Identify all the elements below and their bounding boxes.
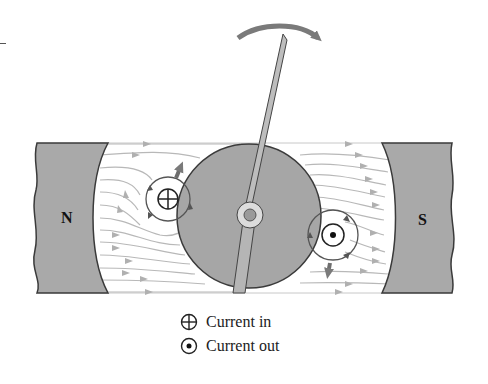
pivot — [244, 209, 256, 221]
legend-label: Current out — [206, 337, 279, 355]
legend-label: Current in — [206, 313, 271, 331]
force-arrow-up — [176, 166, 181, 178]
circle-cross-icon — [180, 313, 198, 331]
south-pole: S — [382, 143, 454, 293]
rotation-arrow-icon — [238, 26, 318, 38]
legend-item-current-in: Current in — [180, 310, 279, 334]
legend: Current in Current out — [180, 310, 279, 358]
south-pole-label: S — [418, 211, 427, 228]
circle-dot-icon — [180, 337, 198, 355]
force-arrow-down — [328, 263, 330, 274]
legend-item-current-out: Current out — [180, 334, 279, 358]
north-pole-label: N — [61, 209, 73, 226]
north-pole: N — [34, 143, 108, 293]
